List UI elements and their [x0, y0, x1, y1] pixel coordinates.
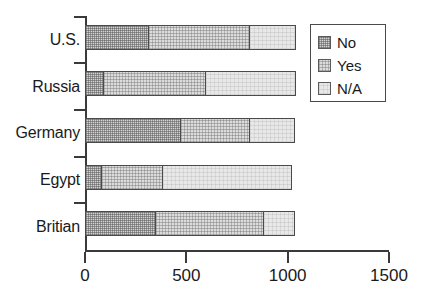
- bar-segment-yes: [148, 26, 249, 49]
- bar-segment-no: [86, 26, 148, 49]
- x-axis-line: [85, 250, 389, 252]
- legend-label-no: No: [337, 35, 356, 50]
- legend-label-yes: Yes: [337, 58, 361, 73]
- legend-item-yes: Yes: [318, 54, 385, 76]
- legend-item-na: N/A: [318, 77, 385, 99]
- bar-segment-na: [249, 26, 295, 49]
- bar-segment-yes: [155, 212, 263, 235]
- category-label-egypt: Egypt: [6, 172, 80, 188]
- x-tick-label-1500: 1500: [370, 267, 408, 285]
- bar-segment-na: [205, 72, 295, 95]
- bar-russia: [85, 71, 296, 96]
- category-label-russia: Russia: [6, 79, 80, 95]
- x-tick-label-500: 500: [172, 267, 200, 285]
- legend-label-na: N/A: [337, 81, 362, 96]
- legend-item-no: No: [318, 31, 385, 53]
- category-label-germany: Germany: [6, 125, 80, 141]
- bar-segment-no: [86, 119, 180, 142]
- x-axis-tick: [185, 252, 187, 263]
- category-label-britian: Britian: [6, 219, 80, 235]
- category-label-us: U.S.: [6, 32, 80, 48]
- x-axis-tick: [388, 252, 390, 263]
- bar-segment-na: [162, 166, 291, 189]
- x-axis-tick: [287, 252, 289, 263]
- category-axis-labels: U.S. Russia Germany Egypt Britian: [0, 0, 80, 301]
- bar-segment-yes: [103, 72, 204, 95]
- bar-segment-no: [86, 72, 103, 95]
- bar-segment-no: [86, 166, 101, 189]
- x-tick-label-1000: 1000: [269, 267, 307, 285]
- bar-segment-no: [86, 212, 155, 235]
- legend: No Yes N/A: [310, 24, 386, 102]
- bar-segment-yes: [101, 166, 162, 189]
- legend-swatch-na-icon: [318, 82, 331, 95]
- bar-segment-yes: [180, 119, 249, 142]
- bar-segment-na: [249, 119, 294, 142]
- x-tick-label-0: 0: [80, 267, 89, 285]
- legend-swatch-no-icon: [318, 36, 331, 49]
- bar-egypt: [85, 165, 292, 190]
- bar-us: [85, 25, 296, 50]
- bar-germany: [85, 118, 295, 143]
- x-axis-tick: [84, 252, 86, 263]
- bar-britian: [85, 211, 295, 236]
- legend-swatch-yes-icon: [318, 59, 331, 72]
- bar-segment-na: [263, 212, 293, 235]
- stacked-bar-chart: U.S. Russia Germany Egypt Britian 0 500 …: [0, 0, 428, 301]
